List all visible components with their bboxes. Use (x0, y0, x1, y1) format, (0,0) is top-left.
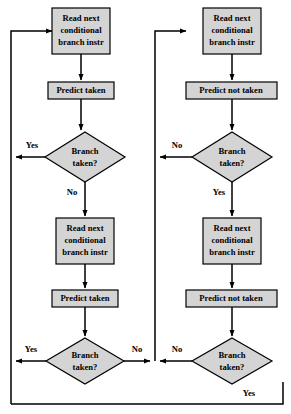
right-stage1-yes-label: Yes (213, 187, 226, 197)
left-stage2-no-label: No (132, 344, 143, 354)
left-stage2-decision-diamond: Branch taken? (46, 338, 124, 384)
left-stage1-predict-label: Predict taken (56, 85, 105, 95)
right-stage2-decision-line2: taken? (220, 362, 245, 372)
left-stage2-decision-line1: Branch (71, 350, 98, 360)
right-stage1-no-label: No (172, 140, 183, 150)
right-stage1-decision-diamond: Branch taken? (192, 132, 272, 182)
right-stage1-read-box: Read next conditional branch instr (203, 8, 261, 54)
left-stage1-decision-line2: taken? (73, 158, 98, 168)
right-stage1-decision-line2: taken? (220, 158, 245, 168)
right-stage1-predict-label: Predict not taken (199, 85, 263, 95)
right-stage2-read-line1: Read next (214, 223, 251, 233)
right-stage2-decision-diamond: Branch taken? (192, 338, 272, 384)
right-stage1-read-line1: Read next (214, 13, 251, 23)
middle-feedback-spine (155, 31, 186, 361)
right-stage2-yes-label: Yes (243, 388, 256, 398)
right-stage2-predict-box: Predict not taken (186, 290, 277, 307)
left-stage1-decision-diamond: Branch taken? (45, 132, 125, 182)
right-stage1-predict-box: Predict not taken (186, 82, 277, 99)
left-stage2-predict-label: Predict taken (60, 293, 109, 303)
left-stage2-predict-box: Predict taken (52, 290, 118, 307)
flowchart-diagram: Read next conditional branch instr Predi… (0, 0, 291, 414)
left-stage1-no-label: No (67, 187, 78, 197)
left-stage1-read-line1: Read next (63, 13, 100, 23)
flowchart-canvas: Read next conditional branch instr Predi… (0, 0, 291, 414)
right-stage2-read-box: Read next conditional branch instr (203, 218, 261, 264)
right-stage1-read-line2: conditional (211, 25, 253, 35)
left-stage2-read-line1: Read next (67, 223, 104, 233)
right-stage1-read-line3: branch instr (209, 37, 255, 47)
left-stage2-yes-label: Yes (25, 344, 38, 354)
left-stage1-predict-box: Predict taken (48, 82, 114, 99)
right-stage2-no-label: No (172, 344, 183, 354)
left-stage2-read-box: Read next conditional branch instr (56, 218, 114, 264)
left-stage1-read-line3: branch instr (58, 37, 104, 47)
left-stage1-decision-line1: Branch (71, 146, 98, 156)
left-stage2-read-line3: branch instr (62, 247, 108, 257)
right-stage2-predict-label: Predict not taken (199, 293, 263, 303)
left-stage1-read-line2: conditional (60, 25, 102, 35)
right-stage2-read-line2: conditional (211, 235, 253, 245)
left-stage2-decision-line2: taken? (73, 362, 98, 372)
right-stage1-decision-line1: Branch (218, 146, 245, 156)
right-stage2-read-line3: branch instr (209, 247, 255, 257)
left-stage1-read-box: Read next conditional branch instr (52, 8, 110, 54)
left-stage2-read-line2: conditional (64, 235, 106, 245)
right-stage2-decision-line1: Branch (218, 350, 245, 360)
left-stage1-yes-label: Yes (26, 140, 39, 150)
